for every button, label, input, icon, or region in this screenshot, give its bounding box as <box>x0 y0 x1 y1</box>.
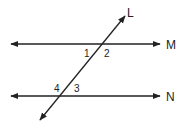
angle-4-label: 4 <box>54 83 60 94</box>
angle-3-label: 3 <box>74 83 80 94</box>
label-m: M <box>166 38 176 52</box>
line-l-transversal <box>40 16 125 120</box>
parallel-lines-diagram: L M N 1 2 3 4 <box>0 0 185 130</box>
angle-2-label: 2 <box>104 48 110 59</box>
label-l: L <box>127 6 134 20</box>
diagram-canvas: L M N 1 2 3 4 <box>0 0 185 130</box>
angle-1-label: 1 <box>84 48 90 59</box>
label-n: N <box>166 90 175 104</box>
